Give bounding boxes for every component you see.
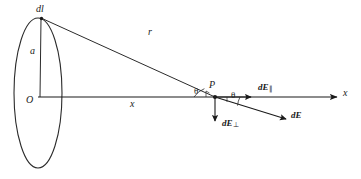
ring-radius-line [40, 19, 41, 97]
label-dE-perpendicular: dE⊥ [222, 119, 239, 129]
physics-diagram-ring-field: dl a O r x P θ θ x dE∥ dE⊥ dE [0, 0, 361, 179]
point-P-marker [213, 95, 217, 99]
label-charge-element: dl [36, 4, 44, 14]
dE-resultant-vector [215, 97, 286, 119]
label-ring-center: O [26, 95, 33, 105]
label-distance-r: r [148, 27, 152, 37]
label-axial-distance: x [130, 99, 134, 109]
label-dE-resultant: dE [291, 111, 302, 120]
charge-element-marker [40, 17, 43, 20]
label-dE-parallel: dE∥ [258, 83, 273, 93]
charged-ring-ellipse [14, 18, 62, 168]
label-x-axis: x [343, 88, 347, 98]
label-angle-theta-right: θ [231, 91, 235, 100]
label-ring-radius: a [30, 46, 35, 56]
distance-r-line [41, 18, 215, 97]
diagram-canvas [0, 0, 361, 179]
label-angle-theta-left: θ [194, 87, 198, 96]
label-field-point: P [209, 80, 215, 90]
